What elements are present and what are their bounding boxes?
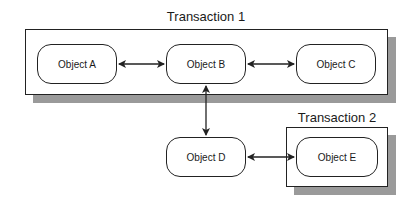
connector-layer [0, 0, 413, 197]
